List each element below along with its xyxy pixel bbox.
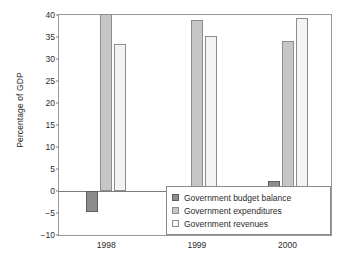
y-axis-title: Percentage of GDP xyxy=(15,45,25,175)
y-tick-label: 30 xyxy=(46,54,55,64)
y-tick-label: 25 xyxy=(46,76,55,86)
y-tick-mark xyxy=(56,59,59,60)
legend-swatch-icon xyxy=(172,207,179,214)
bar xyxy=(100,14,112,191)
legend-swatch-icon xyxy=(172,194,179,201)
y-tick-label: 20 xyxy=(46,98,55,108)
legend-label: Government expenditures xyxy=(184,206,282,216)
bar xyxy=(191,20,203,191)
y-tick-mark xyxy=(56,81,59,82)
y-tick-label: 5 xyxy=(50,164,55,174)
legend-label: Government budget balance xyxy=(184,193,291,203)
y-tick-label: 40 xyxy=(46,10,55,20)
y-tick-label: 0 xyxy=(50,186,55,196)
bar xyxy=(86,191,98,212)
y-tick-mark xyxy=(56,15,59,16)
bar-chart-figure: Percentage of GDP 4035302520151050−5−10 … xyxy=(0,0,347,264)
y-tick-label: 15 xyxy=(46,120,55,130)
legend-label: Government revenues xyxy=(184,219,268,229)
bar xyxy=(282,41,294,191)
legend-item: Government budget balance xyxy=(172,191,325,204)
x-tick-label: 1998 xyxy=(97,240,116,250)
y-tick-mark xyxy=(56,169,59,170)
chart-legend: Government budget balanceGovernment expe… xyxy=(166,186,331,235)
y-tick-mark xyxy=(56,103,59,104)
bar xyxy=(296,18,308,191)
y-tick-label: 10 xyxy=(46,142,55,152)
y-tick-label: −5 xyxy=(45,208,55,218)
x-tick-label: 2000 xyxy=(278,240,297,250)
y-tick-label: −10 xyxy=(41,230,55,240)
legend-swatch-icon xyxy=(172,220,179,227)
legend-item: Government revenues xyxy=(172,217,325,230)
y-tick-mark xyxy=(56,125,59,126)
bar xyxy=(114,44,126,191)
x-tick-label: 1999 xyxy=(187,240,206,250)
y-tick-mark xyxy=(56,37,59,38)
legend-item: Government expenditures xyxy=(172,204,325,217)
y-tick-mark xyxy=(56,147,59,148)
y-tick-mark xyxy=(56,213,59,214)
y-tick-label: 35 xyxy=(46,32,55,42)
y-tick-mark xyxy=(56,235,59,236)
bar xyxy=(205,36,217,191)
